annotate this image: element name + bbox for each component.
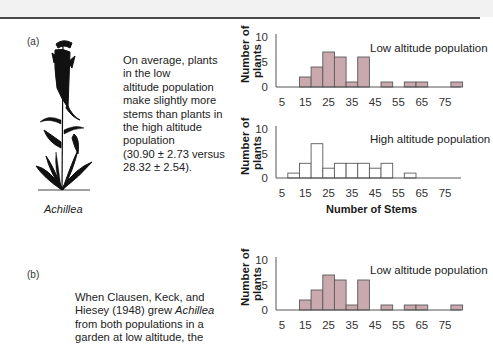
panel-b-description: When Clausen, Keck, and Hiesey (1948) gr… [75, 291, 214, 345]
desc-line: population [123, 134, 225, 147]
histogram-bar [381, 163, 393, 178]
x-tick-label: 25 [322, 96, 335, 108]
desc-line: make slightly more [123, 94, 225, 107]
desc-line: garden at low altitude, the [75, 331, 214, 344]
histogram-bar [346, 305, 358, 310]
panel-a-description: On average, plants in the low altitude p… [123, 54, 225, 175]
x-tick-label: 5 [279, 96, 285, 108]
x-tick-label: 45 [369, 96, 382, 108]
x-tick-label: 5 [279, 319, 285, 331]
x-tick-label: 65 [415, 96, 428, 108]
histogram-bar [334, 163, 346, 178]
histogram-bar [300, 77, 312, 87]
histogram-bar [311, 290, 323, 310]
histogram-bar [404, 173, 416, 178]
y-axis-label-low-a: Number of plants [239, 39, 263, 83]
histogram-bar [358, 163, 370, 178]
x-tick-label: 45 [369, 187, 382, 199]
x-tick-label: 5 [279, 187, 285, 199]
legend-low-a: Low altitude population [370, 42, 488, 54]
histogram-bar [323, 275, 335, 310]
desc-line: the high altitude [123, 121, 225, 134]
histogram-bar [300, 163, 312, 178]
y-axis-label-low-b: Number of plants [239, 262, 263, 306]
legend-high-a: High altitude population [370, 133, 490, 145]
x-tick-label: 35 [346, 319, 359, 331]
histogram-bar [346, 82, 358, 87]
y-label-line: plants [251, 262, 263, 306]
legend-low-b: Low altitude population [370, 264, 488, 276]
desc-line: in the low [123, 67, 225, 80]
desc-line: stems than plants in [123, 108, 225, 121]
desc-line: altitude population [123, 81, 225, 94]
x-tick-label: 25 [322, 187, 335, 199]
desc-line: On average, plants [123, 54, 225, 67]
y-label-line: plants [251, 39, 263, 83]
desc-line: Hiesey (1948) grew Achillea [75, 304, 214, 317]
species-name-italic: Achillea [175, 304, 214, 316]
x-tick-label: 75 [439, 96, 452, 108]
histogram-bar [334, 57, 346, 87]
histogram-bar [451, 82, 463, 87]
achillea-plant-illustration [28, 38, 98, 198]
x-tick-label: 15 [299, 96, 312, 108]
panel-b-label: (b) [27, 269, 39, 280]
top-divider [0, 17, 480, 19]
x-axis-title: Number of Stems [326, 203, 417, 215]
x-tick-label: 75 [439, 187, 452, 199]
desc-line: (30.90 ± 2.73 versus [123, 148, 225, 161]
histogram-bar [311, 144, 323, 178]
histogram-bar [381, 305, 393, 310]
x-tick-label: 55 [392, 187, 405, 199]
y-axis-label-high-a: Number of plants [239, 131, 263, 175]
x-tick-label: 65 [415, 187, 428, 199]
histogram-bar [451, 305, 463, 310]
x-tick-label: 75 [439, 319, 452, 331]
desc-line: from both populations in a [75, 318, 214, 331]
x-tick-label: 15 [299, 319, 312, 331]
x-tick-label: 45 [369, 319, 382, 331]
x-tick-label: 15 [299, 187, 312, 199]
histogram-bar [334, 280, 346, 310]
histogram-bar [416, 305, 428, 310]
histogram-bar [404, 82, 416, 87]
x-tick-label: 35 [346, 96, 359, 108]
x-tick-label: 35 [346, 187, 359, 199]
histogram-bar [311, 67, 323, 87]
histogram-bar [369, 168, 381, 178]
histogram-bar [358, 57, 370, 87]
y-label-line: Number of [239, 131, 251, 175]
x-tick-label: 65 [415, 319, 428, 331]
histogram-bar [323, 168, 335, 178]
y-label-line: plants [251, 131, 263, 175]
x-tick-label: 25 [322, 319, 335, 331]
desc-line: When Clausen, Keck, and [75, 291, 214, 304]
top-band [0, 0, 493, 17]
desc-line: 28.32 ± 2.54). [123, 161, 225, 174]
x-tick-label: 55 [392, 319, 405, 331]
histogram-bar [416, 82, 428, 87]
species-caption: Achillea [44, 203, 83, 215]
x-tick-label: 55 [392, 96, 405, 108]
histogram-bar [288, 173, 300, 178]
y-label-line: Number of [239, 262, 251, 306]
histogram-bar [323, 52, 335, 87]
histogram-bar [404, 305, 416, 310]
histogram-bar [381, 82, 393, 87]
histogram-bar [358, 280, 370, 310]
histogram-bar [300, 300, 312, 310]
desc-text: Hiesey (1948) grew [75, 304, 175, 316]
histogram-bar [346, 163, 358, 178]
y-label-line: Number of [239, 39, 251, 83]
